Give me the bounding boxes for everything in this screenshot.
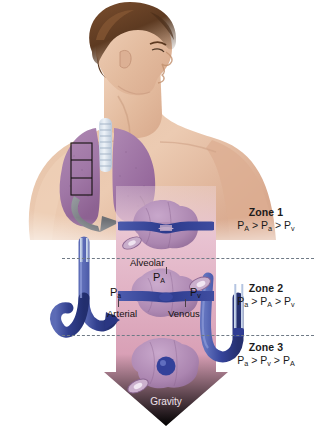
alveolar-pressure-label: PA: [153, 271, 165, 283]
zone-1-equation: PA > Pa > Pv: [218, 219, 314, 233]
venous-label: Venous: [168, 308, 200, 319]
zone-3-equation: Pa > Pv > PA: [218, 354, 314, 368]
lung-zones-figure: Zone 1 PA > Pa > Pv Zone 2 Pa > PA > Pv …: [0, 0, 316, 432]
arterial-label: Arterial: [107, 308, 137, 319]
zone-3-label-group: Zone 3 Pa > Pv > PA: [218, 341, 314, 368]
trachea: [99, 118, 112, 172]
zone-2-label-group: Zone 2 Pa > PA > Pv: [218, 282, 314, 309]
zone-2-title: Zone 2: [218, 282, 314, 294]
arterial-pressure-label: Pa: [110, 286, 121, 298]
zone-divider-2-3: [62, 335, 314, 336]
zone-1-title: Zone 1: [218, 206, 314, 218]
alveolus-unit-zone-3: [118, 334, 214, 398]
zone-divider-1-2: [62, 258, 314, 259]
venous-leader-tick: [185, 299, 186, 307]
zone-3-title: Zone 3: [218, 341, 314, 353]
zone-1-label-group: Zone 1 PA > Pa > Pv: [218, 206, 314, 233]
alveolar-label: Alveolar: [130, 257, 164, 268]
zone-2-equation: Pa > PA > Pv: [218, 295, 314, 309]
arterial-leader-tick: [118, 299, 119, 307]
alveolus-unit-zone-1: [118, 196, 214, 258]
gravity-label: Gravity: [104, 396, 228, 407]
alveolar-leader-tick: [166, 267, 167, 274]
venous-pressure-label: Pv: [190, 286, 201, 298]
